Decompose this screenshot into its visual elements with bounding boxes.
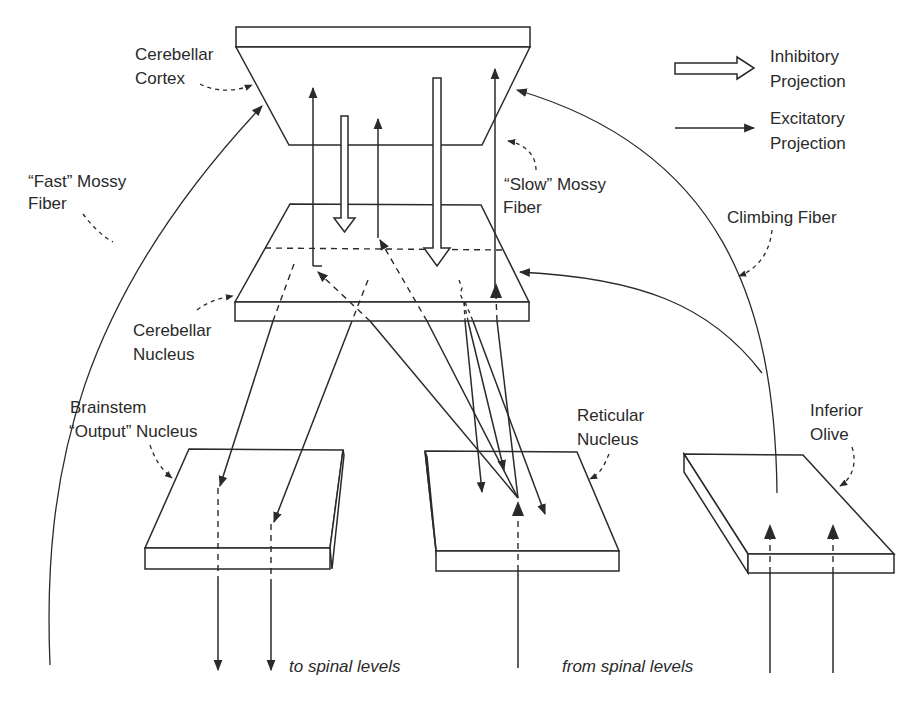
label-from-spinal-levels: from spinal levels: [562, 657, 694, 676]
label-inferior-olive-2: Olive: [810, 425, 849, 444]
brainstem-slab-edge: [145, 548, 330, 569]
cerebellar-circuit-diagram: Inhibitory Projection Excitatory Project…: [0, 0, 921, 701]
label-brainstem-2: “Output” Nucleus: [69, 422, 198, 441]
nucleus-top-face: [235, 204, 529, 302]
legend-excitatory-line2: Projection: [770, 134, 846, 153]
climbing-fiber-to-nucleus: [520, 272, 762, 373]
leader-slow-mossy: [508, 141, 536, 170]
leader-cerebellar-nucleus: [197, 296, 233, 310]
cortex-top-slab: [236, 27, 530, 47]
nucleus-slab-edge: [235, 302, 529, 321]
label-cerebellar-nucleus-1: Cerebellar: [133, 321, 212, 340]
label-slow-mossy-1: “Slow” Mossy: [504, 175, 607, 194]
label-to-spinal-levels: to spinal levels: [289, 657, 401, 676]
legend-inhibitory-line1: Inhibitory: [770, 47, 839, 66]
leader-inferior-olive: [840, 447, 854, 486]
label-slow-mossy-2: Fiber: [503, 198, 542, 217]
label-brainstem-1: Brainstem: [70, 398, 147, 417]
leader-brainstem: [150, 445, 172, 478]
leader-reticular: [590, 454, 609, 479]
reticular-top-face: [425, 451, 619, 551]
label-reticular-1: Reticular: [577, 406, 644, 425]
label-reticular-2: Nucleus: [577, 430, 638, 449]
label-fast-mossy-1: “Fast” Mossy: [28, 172, 127, 191]
legend-excitatory-line1: Excitatory: [770, 109, 845, 128]
legend-inhibitory-line2: Projection: [770, 72, 846, 91]
leader-fast-mossy: [83, 214, 113, 242]
cerebellar-cortex: [236, 27, 530, 145]
label-fast-mossy-2: Fiber: [28, 194, 67, 213]
leader-cerebellar-cortex: [200, 84, 252, 90]
brainstem-output-nucleus: [145, 449, 344, 569]
cerebellar-nucleus: [235, 204, 529, 321]
inferior-olive: [684, 454, 894, 573]
nucleus-reticular-arrow-2: [468, 321, 504, 470]
legend: Inhibitory Projection Excitatory Project…: [675, 47, 846, 153]
legend-inhibitory-arrow: [675, 57, 754, 79]
label-cerebellar-cortex-1: Cerebellar: [135, 45, 214, 64]
brainstem-top-face: [145, 449, 343, 548]
leader-climbing-fiber: [739, 230, 772, 276]
label-cerebellar-nucleus-2: Nucleus: [133, 345, 194, 364]
cortex-trapezoid: [236, 47, 530, 145]
label-cerebellar-cortex-2: Cortex: [135, 69, 186, 88]
label-inferior-olive-1: Inferior: [810, 401, 863, 420]
reticular-slab-edge: [436, 551, 619, 571]
climbing-fiber: [517, 90, 777, 493]
label-climbing-fiber: Climbing Fiber: [727, 208, 837, 227]
